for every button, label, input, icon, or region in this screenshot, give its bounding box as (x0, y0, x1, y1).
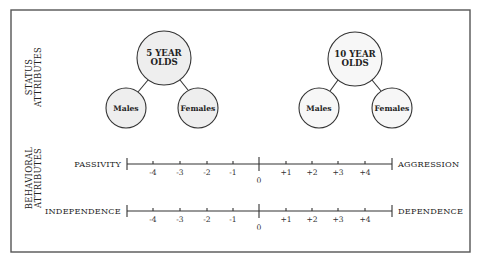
svg-text:+1: +1 (280, 168, 291, 177)
svg-text:PASSIVITY: PASSIVITY (74, 159, 121, 169)
svg-text:-2: -2 (203, 168, 211, 177)
svg-text:Males: Males (306, 104, 331, 113)
svg-text:-3: -3 (176, 215, 184, 224)
connector-line (372, 80, 381, 91)
svg-text:+2: +2 (306, 215, 317, 224)
svg-text:-4: -4 (149, 168, 157, 177)
behavioral-attributes-label: BEHAVIORAL ATTRIBUTES (24, 147, 43, 209)
status-attributes-label: STATUS ATTRIBUTES (24, 47, 43, 108)
svg-text:Females: Females (375, 104, 410, 113)
svg-text:+3: +3 (332, 168, 343, 177)
svg-text:OLDS: OLDS (150, 57, 177, 67)
scale-passivity-aggression: PASSIVITY AGGRESSION -4 -3 -2 -1 0 +1 +2… (74, 157, 459, 185)
diagram-canvas: STATUS ATTRIBUTES BEHAVIORAL ATTRIBUTES … (0, 0, 482, 260)
svg-text:-2: -2 (203, 215, 211, 224)
svg-text:OLDS: OLDS (341, 58, 368, 68)
svg-text:+3: +3 (332, 215, 343, 224)
tree-5-year-olds: 5 YEAR OLDS Males Females (106, 31, 218, 128)
scale-independence-dependence: INDEPENDENCE DEPENDENCE -4 -3 -2 -1 0 +1… (45, 204, 463, 232)
svg-text:ATTRIBUTES: ATTRIBUTES (33, 148, 43, 209)
svg-text:0: 0 (257, 176, 262, 185)
svg-text:-1: -1 (229, 168, 236, 177)
connector-line (330, 80, 338, 91)
svg-text:-3: -3 (176, 168, 184, 177)
svg-text:+4: +4 (359, 168, 370, 177)
svg-text:Females: Females (181, 104, 216, 113)
svg-text:DEPENDENCE: DEPENDENCE (398, 206, 463, 216)
svg-text:AGGRESSION: AGGRESSION (397, 159, 459, 169)
svg-text:-1: -1 (229, 215, 236, 224)
svg-text:ATTRIBUTES: ATTRIBUTES (33, 47, 43, 108)
connector-line (138, 80, 148, 92)
svg-text:+4: +4 (359, 215, 370, 224)
connector-line (180, 80, 188, 90)
svg-text:-4: -4 (149, 215, 157, 224)
svg-text:+2: +2 (306, 168, 317, 177)
tree-10-year-olds: 10 YEAR OLDS Males Females (299, 32, 412, 128)
svg-text:INDEPENDENCE: INDEPENDENCE (45, 206, 121, 216)
svg-text:+1: +1 (280, 215, 291, 224)
svg-text:0: 0 (257, 223, 262, 232)
svg-text:Males: Males (113, 104, 138, 113)
